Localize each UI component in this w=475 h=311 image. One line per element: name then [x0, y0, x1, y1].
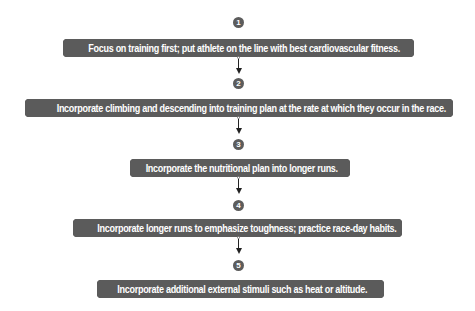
- arrow-down-icon: [236, 128, 242, 134]
- arrow-down-icon: [236, 68, 242, 74]
- arrow-down-icon: [236, 248, 242, 254]
- step-1-box: Focus on training first; put athlete on …: [63, 39, 414, 57]
- step-2-text: Incorporate climbing and descending into…: [57, 99, 446, 117]
- step-3-box: Incorporate the nutritional plan into lo…: [130, 159, 350, 177]
- step-4-text: Incorporate longer runs to emphasize tou…: [97, 219, 396, 237]
- step-4-number-badge: 4: [233, 200, 244, 211]
- step-5-box: Incorporate additional external stimuli …: [97, 280, 384, 298]
- step-1-text: Focus on training first; put athlete on …: [88, 39, 399, 57]
- training-progression-flowchart: 1 Focus on training first; put athlete o…: [0, 0, 475, 311]
- step-5-number-badge: 5: [233, 260, 244, 271]
- step-5-text: Incorporate additional external stimuli …: [117, 280, 367, 298]
- step-4-box: Incorporate longer runs to emphasize tou…: [73, 219, 402, 237]
- arrow-down-icon: [236, 188, 242, 194]
- step-3-number-badge: 3: [233, 139, 244, 150]
- step-2-box: Incorporate climbing and descending into…: [25, 99, 453, 117]
- step-1-number-badge: 1: [233, 17, 244, 28]
- step-2-number-badge: 2: [233, 78, 244, 89]
- step-3-text: Incorporate the nutritional plan into lo…: [146, 159, 338, 177]
